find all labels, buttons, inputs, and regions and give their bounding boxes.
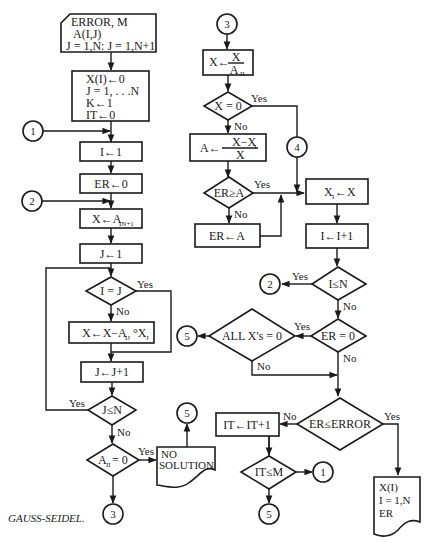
box-j-init: J←1 (80, 244, 142, 263)
svg-text:X: X (236, 148, 245, 162)
decision-i-le-n: I≤N (312, 267, 366, 300)
no-label: No (283, 410, 297, 422)
connector-3-exit[interactable]: 3 (103, 504, 123, 524)
svg-text:A←: A← (200, 141, 221, 155)
connector-5-nosolution[interactable]: 5 (177, 403, 197, 423)
output-result: X(I) I = 1,N ER (374, 477, 420, 536)
box-xi-assign: X I ←X (306, 179, 368, 204)
box-er-set: ER←A (195, 224, 260, 247)
output-no-solution: NO SOLUTION (157, 447, 215, 487)
decision-it-le-m: IT≤M (241, 456, 296, 489)
connector-5-allx[interactable]: 5 (177, 326, 197, 346)
decision-j-le-n: J≤N (88, 396, 136, 425)
svg-text:I = J: I = J (100, 284, 122, 298)
svg-text:= 0: = 0 (112, 453, 128, 467)
init-box: X(I)←0 J = 1, . . .N K←1 IT←0 (72, 71, 149, 122)
yes-label: Yes (251, 92, 267, 104)
svg-text:ER≤ERROR: ER≤ERROR (309, 417, 371, 431)
gauss-seidel-flowchart: ERROR, M A(I,J) J = 1,N: J = 1,N+1 X(I)←… (0, 0, 437, 543)
svg-text:IT←IT+1: IT←IT+1 (223, 418, 270, 432)
svg-text:X←: X← (209, 55, 230, 69)
svg-text:5: 5 (184, 330, 190, 342)
svg-text:X: X (232, 50, 241, 64)
init-line4: IT←0 (86, 108, 115, 122)
svg-text:I = 1,N: I = 1,N (379, 494, 411, 506)
input-card: ERROR, M A(I,J) J = 1,N: J = 1,N+1 (61, 14, 156, 53)
yes-branch-x-zero (252, 106, 297, 137)
svg-text:J←J+1: J←J+1 (95, 365, 129, 379)
svg-text:°X: °X (133, 326, 147, 340)
yes-label: Yes (69, 397, 85, 409)
svg-text:ER: ER (379, 507, 394, 519)
box-a-calc: A← X−X I X (190, 134, 266, 162)
no-label: No (257, 360, 271, 372)
connector-2-entry[interactable]: 2 (22, 191, 42, 211)
svg-text:I≤N: I≤N (328, 277, 348, 291)
svg-text:X←X−A: X←X−A (82, 326, 127, 340)
svg-text:I←1: I←1 (100, 145, 122, 159)
no-label: No (116, 305, 130, 317)
svg-text:IN+1: IN+1 (119, 220, 134, 228)
svg-text:2: 2 (29, 195, 35, 207)
svg-text:II: II (240, 70, 245, 78)
connector-3-entry[interactable]: 3 (217, 14, 237, 34)
box-it-inc: IT←IT+1 (216, 413, 279, 436)
svg-text:IJ: IJ (125, 334, 130, 342)
connector-1-exit[interactable]: 1 (313, 462, 333, 482)
svg-text:ER←A: ER←A (209, 229, 245, 243)
input-card-line3: J = 1,N: J = 1,N+1 (66, 39, 155, 53)
no-label: No (234, 208, 248, 220)
decision-er-ge-a: ER≥A (204, 177, 253, 208)
svg-text:J←1: J←1 (100, 247, 123, 261)
svg-text:ER←0: ER←0 (94, 177, 127, 191)
svg-text:A: A (230, 63, 239, 77)
decision-er-zero: ER = 0 (311, 319, 366, 352)
decision-er-le-error: ER≤ERROR (297, 398, 383, 450)
svg-text:4: 4 (294, 141, 300, 153)
decision-x-zero: X = 0 (204, 92, 252, 120)
svg-text:X−X: X−X (232, 135, 256, 149)
flow-arrow (260, 195, 281, 236)
no-label: No (117, 426, 131, 438)
svg-text:II: II (106, 461, 111, 469)
svg-text:X←A: X←A (92, 212, 122, 226)
svg-text:J≤N: J≤N (102, 403, 122, 417)
svg-text:X(I): X(I) (379, 481, 398, 494)
svg-text:ER≥A: ER≥A (214, 186, 245, 200)
svg-text:X = 0: X = 0 (214, 99, 241, 113)
svg-text:ER = 0: ER = 0 (321, 329, 355, 343)
box-j-inc: J←J+1 (81, 362, 143, 382)
decision-aii-zero: A II = 0 (87, 444, 139, 476)
svg-text:J: J (146, 334, 149, 342)
no-label: No (343, 352, 357, 364)
svg-text:1: 1 (30, 125, 36, 137)
svg-text:2: 2 (267, 278, 273, 290)
svg-text:3: 3 (224, 18, 230, 30)
box-x-update: X←X−A IJ °X J (69, 322, 154, 343)
box-er-init: ER←0 (80, 174, 142, 193)
svg-text:I←I+1: I←I+1 (321, 229, 354, 243)
connector-2-exit[interactable]: 2 (260, 274, 280, 294)
decision-all-x-zero: ALL X's = 0 (209, 309, 295, 361)
svg-text:ALL X's = 0: ALL X's = 0 (222, 329, 282, 343)
connector-4[interactable]: 4 (287, 137, 307, 157)
svg-text:1: 1 (320, 466, 326, 478)
connector-5-itm[interactable]: 5 (259, 504, 279, 524)
svg-text:SOLUTION: SOLUTION (159, 459, 214, 471)
decision-i-eq-j: I = J (86, 277, 136, 305)
caption: GAUSS-SEIDEL. (8, 512, 85, 524)
svg-text:3: 3 (110, 508, 116, 520)
box-i-inc: I←I+1 (306, 224, 368, 248)
yes-label: Yes (292, 270, 308, 282)
yes-label: Yes (138, 445, 154, 457)
box-x-assign: X←A IN+1 (80, 209, 142, 228)
yes-label: Yes (254, 178, 270, 190)
no-label: No (343, 300, 357, 312)
yes-label: Yes (294, 320, 310, 332)
svg-text:←X: ←X (335, 185, 356, 199)
box-x-divide: X← X A II (203, 50, 253, 78)
flow-arrow (383, 424, 398, 475)
svg-text:5: 5 (184, 407, 190, 419)
connector-1-entry[interactable]: 1 (23, 121, 43, 141)
box-i-init: I←1 (80, 142, 142, 161)
